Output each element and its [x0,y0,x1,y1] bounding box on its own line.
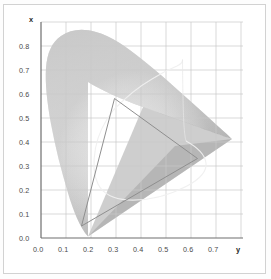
x-tick-0: 0.0 [33,245,43,254]
plot-area: x y 0.0 0.1 0.2 0.3 0.4 0.5 0.6 0.7 0.8 … [0,0,271,279]
chromaticity-figure: x y 0.0 0.1 0.2 0.3 0.4 0.5 0.6 0.7 0.8 … [0,0,271,279]
x-tick-1: 0.1 [58,245,68,254]
y-tick-5: 0.5 [19,114,29,123]
x-tick-4: 0.4 [133,245,143,254]
chart-svg [0,0,271,279]
x-tick-2: 0.2 [83,245,93,254]
x-tick-5: 0.5 [158,245,168,254]
y-tick-0: 0.0 [19,234,29,243]
x-tick-6: 0.6 [183,245,193,254]
x-tick-7: 0.7 [208,245,218,254]
y-tick-2: 0.2 [19,186,29,195]
y-tick-7: 0.7 [19,66,29,75]
y-tick-1: 0.1 [19,210,29,219]
y-tick-6: 0.6 [19,90,29,99]
y-tick-4: 0.4 [19,138,29,147]
x-tick-3: 0.3 [108,245,118,254]
x-axis-title: y [236,245,240,254]
y-tick-3: 0.3 [19,162,29,171]
y-axis-title: x [29,15,33,24]
y-tick-8: 0.8 [19,42,29,51]
